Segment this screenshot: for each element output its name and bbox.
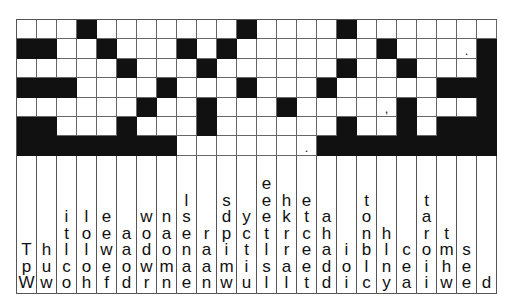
letter-tile[interactable]: i [425,275,429,292]
answer-cell[interactable] [357,39,377,58]
letter-tile[interactable]: w [440,275,452,292]
answer-cell[interactable] [417,117,437,136]
letter-tile[interactable]: d [482,275,491,292]
answer-cell[interactable] [257,136,277,155]
answer-cell[interactable] [177,78,197,97]
answer-cell[interactable] [397,20,417,39]
answer-cell[interactable] [217,59,237,78]
letter-tile[interactable]: l [285,275,289,292]
answer-cell[interactable] [217,78,237,97]
answer-cell[interactable] [237,59,257,78]
answer-cell[interactable] [97,78,117,97]
answer-cell[interactable] [17,59,37,78]
answer-cell[interactable] [57,59,77,78]
answer-cell[interactable] [177,59,197,78]
answer-cell[interactable] [217,117,237,136]
answer-cell[interactable] [137,78,157,97]
answer-cell[interactable] [277,117,297,136]
answer-cell[interactable]: . [457,39,477,58]
answer-cell[interactable] [177,117,197,136]
answer-cell[interactable] [157,59,177,78]
letter-tile[interactable]: a [402,275,411,292]
answer-cell[interactable] [257,39,277,58]
answer-cell[interactable] [297,20,317,39]
answer-cell[interactable] [137,59,157,78]
answer-cell[interactable] [317,39,337,58]
answer-cell[interactable] [77,117,97,136]
answer-cell[interactable] [137,20,157,39]
answer-cell[interactable] [337,98,357,117]
answer-cell[interactable] [177,136,197,155]
answer-cell[interactable] [117,20,137,39]
letter-tile[interactable]: d [122,275,131,292]
answer-cell[interactable] [477,20,497,39]
letter-tile[interactable]: c [362,275,371,292]
answer-cell[interactable] [457,59,477,78]
answer-cell[interactable] [317,59,337,78]
answer-cell[interactable] [237,117,257,136]
answer-cell[interactable] [257,117,277,136]
answer-cell[interactable] [437,59,457,78]
answer-cell[interactable] [97,59,117,78]
answer-cell[interactable] [317,98,337,117]
answer-cell[interactable] [377,59,397,78]
answer-cell[interactable] [417,39,437,58]
answer-cell[interactable] [317,20,337,39]
letter-tile[interactable]: d [322,275,331,292]
answer-cell[interactable] [357,59,377,78]
letter-tile[interactable]: f [104,275,109,292]
answer-cell[interactable] [277,20,297,39]
answer-cell[interactable] [417,98,437,117]
letter-tile[interactable]: t [304,275,309,292]
letter-tile[interactable]: n [162,275,171,292]
letter-tile[interactable]: u [242,275,251,292]
answer-cell[interactable] [177,20,197,39]
answer-cell[interactable] [197,136,217,155]
answer-cell[interactable] [77,39,97,58]
answer-cell[interactable] [77,78,97,97]
letter-tile[interactable]: r [144,275,150,292]
answer-cell[interactable] [437,39,457,58]
answer-cell[interactable] [277,78,297,97]
answer-cell[interactable] [37,59,57,78]
letter-tile[interactable]: y [382,275,391,292]
answer-cell[interactable] [97,98,117,117]
answer-cell[interactable] [457,98,477,117]
answer-cell[interactable] [137,117,157,136]
answer-cell[interactable] [397,39,417,58]
answer-cell[interactable] [197,39,217,58]
answer-cell[interactable] [217,98,237,117]
letter-tile[interactable]: w [220,275,232,292]
answer-cell[interactable] [417,78,437,97]
letter-tile[interactable]: w [40,275,52,292]
answer-cell[interactable] [417,20,437,39]
answer-cell[interactable] [237,136,257,155]
answer-cell[interactable] [197,20,217,39]
letter-tile[interactable]: W [18,275,34,292]
answer-cell[interactable] [297,117,317,136]
answer-cell[interactable] [117,39,137,58]
letter-tile[interactable]: l [265,275,269,292]
answer-cell[interactable] [257,98,277,117]
answer-cell[interactable] [57,20,77,39]
answer-cell[interactable] [157,39,177,58]
answer-cell[interactable] [377,78,397,97]
answer-cell[interactable] [77,98,97,117]
answer-cell[interactable] [177,98,197,117]
answer-cell[interactable] [297,78,317,97]
answer-cell[interactable] [17,20,37,39]
answer-cell[interactable] [297,59,317,78]
answer-cell[interactable] [17,98,37,117]
answer-cell[interactable] [377,117,397,136]
answer-cell[interactable] [357,117,377,136]
answer-cell[interactable] [57,117,77,136]
answer-cell[interactable] [277,59,297,78]
letter-tile[interactable]: e [182,275,191,292]
letter-tile[interactable]: n [202,275,211,292]
answer-cell[interactable] [337,78,357,97]
answer-cell[interactable] [57,98,77,117]
answer-cell[interactable] [357,20,377,39]
answer-cell[interactable] [397,78,417,97]
answer-cell[interactable] [157,117,177,136]
answer-cell[interactable] [97,117,117,136]
